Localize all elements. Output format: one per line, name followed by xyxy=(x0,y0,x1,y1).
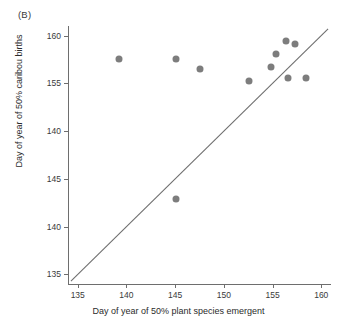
data-point xyxy=(283,38,290,45)
data-point xyxy=(285,74,292,81)
x-axis-label: Day of year of 50% plant species emergen… xyxy=(0,306,357,316)
data-point xyxy=(246,78,253,85)
y-tick-mark xyxy=(64,36,68,37)
x-tick-mark xyxy=(175,284,176,288)
y-tick-label: 135 xyxy=(47,269,61,279)
data-point xyxy=(196,66,203,73)
x-tick-mark xyxy=(126,284,127,288)
y-tick-mark xyxy=(64,227,68,228)
x-tick-label: 155 xyxy=(265,290,279,300)
x-tick-label: 160 xyxy=(314,290,328,300)
y-tick-label: 140 xyxy=(47,126,61,136)
data-point xyxy=(173,56,180,63)
x-tick-mark xyxy=(224,284,225,288)
y-tick-mark xyxy=(64,83,68,84)
x-axis-line xyxy=(68,284,331,285)
data-point xyxy=(273,50,280,57)
x-tick-label: 135 xyxy=(71,290,85,300)
data-point xyxy=(115,56,122,63)
y-tick-label: 155 xyxy=(47,78,61,88)
y-tick-label: 160 xyxy=(47,31,61,41)
y-tick-mark xyxy=(64,131,68,132)
y-axis-line xyxy=(68,26,69,284)
y-tick-mark xyxy=(64,274,68,275)
y-tick-mark xyxy=(64,179,68,180)
data-point xyxy=(291,41,298,48)
y-axis-label: Day of year of 50% caribou births xyxy=(14,0,24,216)
data-point xyxy=(173,195,180,202)
y-tick-label: 140 xyxy=(47,222,61,232)
scatter-plot-figure: (B) 135140145150155160 13514014514015516… xyxy=(0,0,357,335)
x-tick-label: 140 xyxy=(119,290,133,300)
x-tick-label: 150 xyxy=(217,290,231,300)
y-tick-label: 145 xyxy=(47,174,61,184)
x-tick-mark xyxy=(78,284,79,288)
x-tick-label: 145 xyxy=(168,290,182,300)
data-point xyxy=(267,64,274,71)
x-tick-mark xyxy=(273,284,274,288)
x-tick-mark xyxy=(321,284,322,288)
data-point xyxy=(302,74,309,81)
